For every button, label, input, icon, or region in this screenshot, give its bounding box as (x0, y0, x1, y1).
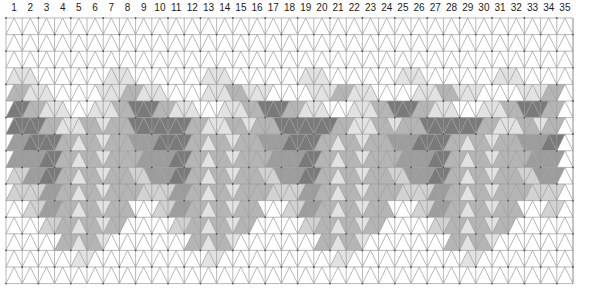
lattice-node (281, 133, 283, 135)
grid-line-diagonal-left (79, 84, 87, 101)
lattice-node (362, 117, 364, 119)
lattice-node (183, 200, 185, 202)
grid-line-diagonal-left (500, 18, 508, 35)
grid-line-diagonal-left (225, 51, 233, 68)
lattice-node (183, 233, 185, 235)
lattice-node (329, 283, 331, 285)
grid-line-diagonal-right (200, 101, 208, 118)
grid-line-diagonal-left (273, 201, 281, 218)
lattice-node (410, 266, 412, 268)
grid-line-diagonal-left (565, 267, 573, 284)
grid-line-diagonal-left (403, 267, 411, 284)
grid-line-diagonal-left (468, 267, 476, 284)
grid-line-diagonal-right (200, 35, 208, 52)
lattice-node (135, 117, 137, 119)
lattice-node (102, 17, 104, 19)
lattice-node (21, 100, 23, 102)
grid-line-diagonal-right (492, 35, 500, 52)
grid-line-diagonal-right (298, 234, 306, 251)
grid-line-diagonal-right (379, 267, 387, 284)
grid-line-diagonal-right (476, 18, 484, 35)
lattice-node (572, 133, 574, 135)
lattice-node (394, 50, 396, 52)
grid-line-diagonal-right (330, 68, 338, 85)
grid-line-diagonal-right (298, 84, 306, 101)
lattice-node (151, 67, 153, 69)
lattice-node (459, 17, 461, 19)
grid-line-diagonal-right (508, 250, 516, 267)
lattice-node (297, 250, 299, 252)
grid-line-diagonal-left (290, 234, 298, 251)
grid-line-diagonal-right (395, 217, 403, 234)
grid-line-diagonal-right (119, 267, 127, 284)
grid-line-diagonal-left (500, 234, 508, 251)
grid-line-diagonal-left (306, 234, 314, 251)
grid-line-diagonal-right (427, 250, 435, 267)
lattice-node (119, 200, 121, 202)
grid-line-diagonal-left (516, 217, 524, 234)
lattice-node (524, 283, 526, 285)
grid-line-diagonal-left (241, 234, 249, 251)
lattice-node (264, 250, 266, 252)
grid-line-diagonal-right (6, 201, 14, 218)
grid-line-diagonal-right (136, 234, 144, 251)
lattice-node (362, 84, 364, 86)
lattice-node (345, 133, 347, 135)
grid-line-diagonal-left (338, 267, 346, 284)
lattice-node (167, 283, 169, 285)
lattice-node (297, 183, 299, 185)
lattice-node (572, 266, 574, 268)
grid-line-diagonal-right (330, 101, 338, 118)
lattice-node (70, 250, 72, 252)
lattice-node (119, 67, 121, 69)
grid-line-diagonal-right (476, 35, 484, 52)
grid-line-diagonal-right (136, 201, 144, 218)
grid-line-diagonal-left (452, 35, 460, 52)
grid-line-diagonal-right (6, 217, 14, 234)
grid-line-diagonal-right (281, 234, 289, 251)
lattice-node (491, 216, 493, 218)
grid-line-diagonal-right (492, 84, 500, 101)
triangle-grid-canvas[interactable] (0, 0, 595, 294)
grid-line-diagonal-right (87, 84, 95, 101)
grid-line-diagonal-right (379, 51, 387, 68)
grid-line-diagonal-left (257, 250, 265, 267)
grid-line-diagonal-right (152, 217, 160, 234)
lattice-node (345, 34, 347, 36)
grid-line-diagonal-left (419, 18, 427, 35)
grid-line-diagonal-left (533, 35, 541, 52)
grid-line-diagonal-right (460, 68, 468, 85)
grid-line-diagonal-left (306, 250, 314, 267)
lattice-node (232, 50, 234, 52)
grid-line-diagonal-right (265, 234, 273, 251)
grid-line-diagonal-left (338, 18, 346, 35)
grid-line-diagonal-left (565, 151, 573, 168)
grid-line-diagonal-left (403, 250, 411, 267)
lattice-node (119, 100, 121, 102)
grid-line-diagonal-left (257, 217, 265, 234)
grid-line-diagonal-right (443, 267, 451, 284)
lattice-node (264, 50, 266, 52)
grid-line-diagonal-left (128, 250, 136, 267)
grid-line-diagonal-right (557, 35, 565, 52)
grid-line-diagonal-left (354, 35, 362, 52)
lattice-node (5, 50, 7, 52)
grid-line-diagonal-left (176, 234, 184, 251)
grid-line-diagonal-left (95, 250, 103, 267)
grid-line-diagonal-right (557, 18, 565, 35)
grid-line-diagonal-left (387, 35, 395, 52)
lattice-node (54, 67, 56, 69)
grid-line-diagonal-right (411, 250, 419, 267)
lattice-node (151, 133, 153, 135)
lattice-node (572, 233, 574, 235)
grid-line-diagonal-right (152, 35, 160, 52)
grid-line-diagonal-left (387, 217, 395, 234)
grid-line-diagonal-left (63, 84, 71, 101)
grid-line-diagonal-right (362, 250, 370, 267)
grid-line-diagonal-left (30, 217, 38, 234)
lattice-node (86, 167, 88, 169)
lattice-node (313, 200, 315, 202)
lattice-node (151, 233, 153, 235)
grid-line-diagonal-left (47, 234, 55, 251)
grid-line-diagonal-right (233, 18, 241, 35)
